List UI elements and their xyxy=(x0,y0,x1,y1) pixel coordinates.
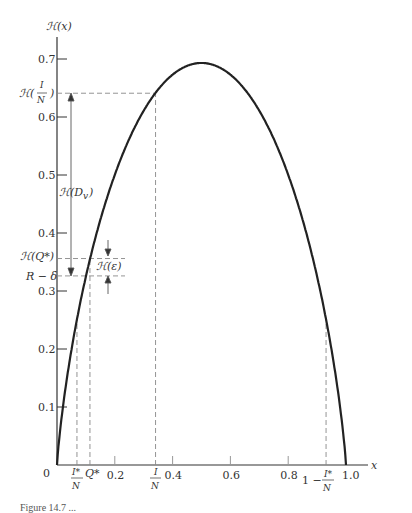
svg-text:ℋ(D: ℋ(D xyxy=(59,186,83,199)
arrow-down-icon xyxy=(68,268,74,276)
y-tick-label: 0.1 xyxy=(38,401,56,414)
svg-text:): ) xyxy=(49,87,54,100)
y-tick-label: 0.3 xyxy=(38,285,56,298)
dashed-guides xyxy=(57,93,326,465)
svg-text:1 −: 1 − xyxy=(302,474,322,487)
x-marker-one-minus-i-star-over-n: 1 − I* N xyxy=(302,469,334,493)
x-tick-label: 0.6 xyxy=(222,469,240,482)
svg-text:ℋ(: ℋ( xyxy=(19,87,35,100)
y-tick-label: 0.7 xyxy=(38,53,56,66)
svg-text:I: I xyxy=(39,80,44,90)
svg-text:N: N xyxy=(36,95,46,105)
svg-text:N: N xyxy=(71,481,81,491)
svg-text:N: N xyxy=(322,483,332,493)
x-tick-label: 0.4 xyxy=(165,469,183,482)
svg-text:I*: I* xyxy=(71,467,81,477)
h-i-over-n-label: ℋ( I N ) xyxy=(19,80,54,105)
x-tick-label: 0.2 xyxy=(107,469,125,482)
y-ticks: 0.10.20.30.40.50.60.7 xyxy=(38,53,67,414)
x-marker-q-star: Q* xyxy=(85,467,100,480)
arrow-down-icon xyxy=(105,249,111,256)
svg-text:I: I xyxy=(153,467,158,477)
y-tick-label: 0.6 xyxy=(38,111,56,124)
h-dv-label: ℋ(D v ) xyxy=(59,186,93,201)
h-epsilon-label: ℋ(ε) xyxy=(96,260,122,273)
svg-text:N: N xyxy=(150,481,160,491)
entropy-chart: 0.10.20.30.40.50.60.7 0.20.40.60.81.0 ℋ(… xyxy=(0,0,412,513)
x-marker-i-over-n: I N xyxy=(150,467,161,491)
y-tick-label: 0.2 xyxy=(38,343,56,356)
y-axis-label: ℋ(x) xyxy=(46,20,72,33)
svg-text:I*: I* xyxy=(323,469,333,479)
svg-text:v: v xyxy=(83,191,88,201)
figure-caption: Figure 14.7 ... xyxy=(20,502,76,513)
arrow-up-icon xyxy=(105,276,111,283)
r-minus-delta-label: R − δ xyxy=(25,270,57,283)
y-tick-label: 0.5 xyxy=(38,169,56,182)
y-tick-label: 0.4 xyxy=(38,227,56,240)
x-marker-i-star-over-n: I* N xyxy=(71,467,83,491)
x-tick-label: 0.8 xyxy=(280,469,298,482)
arrow-up-icon xyxy=(68,93,74,101)
h-q-star-label: ℋ(Q*) xyxy=(20,250,54,263)
x-tick-label: 1.0 xyxy=(342,469,360,482)
x-axis-label: x xyxy=(371,459,378,472)
origin-label: 0 xyxy=(43,467,50,480)
svg-text:): ) xyxy=(88,186,93,199)
